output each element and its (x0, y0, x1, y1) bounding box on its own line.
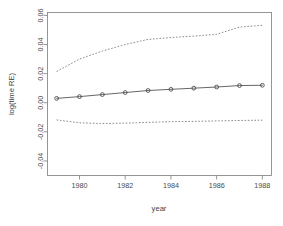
x-tick-label: 1986 (209, 181, 225, 190)
y-tick-label: -0.02 (36, 124, 45, 140)
y-tick-label: 0.00 (36, 96, 45, 110)
x-axis-label: year (152, 204, 167, 213)
x-tick-label: 1980 (72, 181, 88, 190)
y-axis-label: log(time RE) (7, 72, 16, 115)
x-tick-label: 1984 (163, 181, 179, 190)
y-tick-label: -0.04 (36, 153, 45, 169)
figure-background (0, 0, 283, 226)
chart-figure: -0.04-0.020.000.020.040.06 1980198219841… (0, 0, 283, 226)
y-tick-label: 0.06 (36, 8, 45, 22)
y-tick-label: 0.04 (36, 38, 45, 52)
y-tick-label: 0.02 (36, 67, 45, 81)
plot-canvas: -0.04-0.020.000.020.040.06 1980198219841… (0, 0, 283, 226)
x-tick-label: 1988 (254, 181, 270, 190)
x-tick-label: 1982 (117, 181, 133, 190)
